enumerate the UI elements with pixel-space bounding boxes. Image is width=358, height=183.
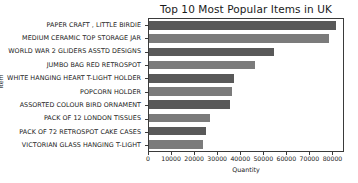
x-tick-label: 80000	[323, 155, 343, 162]
y-tick-label: WHITE HANGING HEART T-LIGHT HOLDER	[0, 72, 145, 85]
bar-series	[149, 19, 343, 151]
bar	[149, 127, 206, 136]
bar-row	[149, 85, 343, 98]
bar	[149, 114, 210, 123]
x-tick-label: 50000	[253, 155, 273, 162]
bar-row	[149, 19, 343, 32]
bar-row	[149, 125, 343, 138]
y-axis-tick-labels: PAPER CRAFT , LITTLE BIRDIE MEDIUM CERAM…	[0, 18, 145, 152]
bar	[149, 140, 203, 149]
chart-title: Top 10 Most Popular Items in UK	[148, 3, 344, 15]
x-tick-label: 20000	[184, 155, 204, 162]
y-tick-mark	[145, 92, 148, 93]
y-tick-mark	[145, 119, 148, 120]
y-tick-mark	[145, 145, 148, 146]
bar	[149, 34, 329, 43]
x-tick-label: 60000	[277, 155, 297, 162]
bar-row	[149, 32, 343, 45]
bar-row	[149, 98, 343, 111]
y-tick-mark	[145, 52, 148, 53]
x-tick-label: 70000	[300, 155, 320, 162]
y-tick-mark	[145, 25, 148, 26]
bar-row	[149, 59, 343, 72]
x-tick-label: 10000	[161, 155, 181, 162]
bar	[149, 21, 336, 30]
bar-row	[149, 111, 343, 124]
chart-figure: Top 10 Most Popular Items in UK Item PAP…	[0, 0, 358, 183]
y-tick-label: WORLD WAR 2 GLIDERS ASSTD DESIGNS	[0, 45, 145, 58]
x-tick-label: 40000	[230, 155, 250, 162]
y-tick-mark	[145, 132, 148, 133]
x-tick-label: 30000	[207, 155, 227, 162]
bar	[149, 87, 232, 96]
bar	[149, 61, 255, 70]
y-tick-label: PACK OF 72 RETROSPOT CAKE CASES	[0, 125, 145, 138]
y-tick-label: MEDIUM CERAMIC TOP STORAGE JAR	[0, 31, 145, 44]
y-tick-label: PACK OF 12 LONDON TISSUES	[0, 112, 145, 125]
bar	[149, 100, 230, 109]
bar	[149, 74, 234, 83]
y-tick-label: PAPER CRAFT , LITTLE BIRDIE	[0, 18, 145, 31]
x-axis-ticks: 0100002000030000400005000060000700008000…	[148, 152, 344, 164]
bar	[149, 48, 274, 57]
y-tick-label: POPCORN HOLDER	[0, 85, 145, 98]
x-axis-label: Quantity	[148, 166, 344, 174]
y-tick-mark	[145, 78, 148, 79]
y-tick-mark	[145, 65, 148, 66]
bar-row	[149, 138, 343, 151]
x-tick-label: 0	[146, 155, 150, 162]
y-tick-label: ASSORTED COLOUR BIRD ORNAMENT	[0, 98, 145, 111]
plot-area	[148, 18, 344, 152]
bar-row	[149, 45, 343, 58]
y-tick-label: JUMBO BAG RED RETROSPOT	[0, 58, 145, 71]
y-tick-label: VICTORIAN GLASS HANGING T-LIGHT	[0, 139, 145, 152]
y-tick-mark	[145, 38, 148, 39]
y-tick-mark	[145, 105, 148, 106]
bar-row	[149, 72, 343, 85]
